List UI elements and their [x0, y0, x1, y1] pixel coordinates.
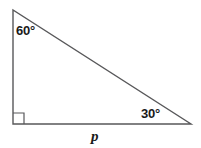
- side-label-base: p: [91, 129, 99, 144]
- angle-label-base-right: 30°: [141, 107, 160, 120]
- angle-label-apex: 60°: [16, 24, 35, 37]
